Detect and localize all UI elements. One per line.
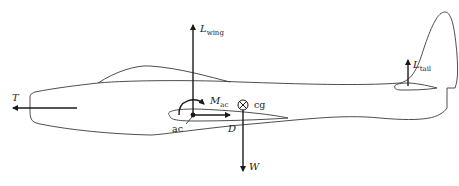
thrust-label: T — [12, 92, 20, 103]
moment-ac-arrow — [179, 100, 204, 115]
center-of-gravity-symbol — [238, 100, 248, 110]
drag-label: D — [227, 123, 236, 134]
fuselage-outline — [30, 12, 458, 135]
ac-label: ac — [172, 123, 183, 134]
moment-ac-label: Mac — [209, 95, 228, 109]
tail-airfoil — [395, 83, 437, 90]
weight-label: W — [249, 161, 260, 172]
cg-label: cg — [254, 99, 265, 110]
wing-lift-label: Lwing — [199, 23, 224, 37]
airplane-free-body-diagram: T Lwing Mac ac D cg W Ltail — [0, 0, 459, 186]
